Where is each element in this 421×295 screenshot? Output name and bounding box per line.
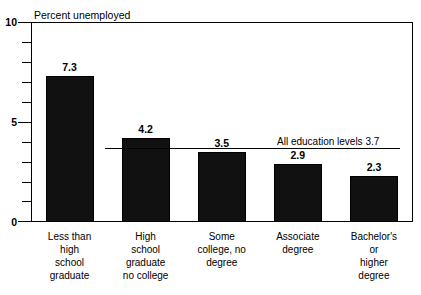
y-axis-minor-tick	[22, 82, 31, 83]
bar	[350, 176, 398, 222]
bar-value-label: 2.3	[344, 162, 404, 173]
y-axis-minor-tick	[22, 142, 31, 143]
y-axis-minor-tick	[22, 201, 31, 202]
bar	[274, 164, 322, 222]
x-axis-category-label: Less than high school graduate	[28, 230, 112, 282]
y-axis-major-tick	[18, 221, 31, 222]
x-axis-category-label: High school graduate no college	[104, 230, 188, 282]
y-axis-minor-tick	[22, 42, 31, 43]
y-axis-minor-tick	[22, 62, 31, 63]
y-axis-minor-tick	[22, 102, 31, 103]
bar-value-label: 4.2	[116, 124, 176, 135]
chart-axis-title: Percent unemployed	[34, 9, 130, 21]
x-axis-category-label: Associate degree	[256, 230, 340, 256]
bar	[122, 138, 170, 222]
unemployment-bar-chart: Percent unemployed 0510 7.3Less than hig…	[0, 0, 421, 295]
bar-value-label: 7.3	[40, 62, 100, 73]
y-axis-label: 5	[0, 117, 17, 127]
x-axis-category-label: Bachelor's or higher degree	[332, 230, 416, 282]
reference-line	[105, 148, 400, 149]
y-axis-minor-tick	[22, 182, 31, 183]
bar-value-label: 2.9	[268, 150, 328, 161]
bar	[198, 152, 246, 222]
y-axis-label: 0	[0, 217, 17, 227]
y-axis-major-tick	[18, 22, 31, 23]
y-axis-minor-tick	[22, 162, 31, 163]
y-axis-label: 10	[0, 17, 17, 27]
y-axis-major-tick	[18, 122, 31, 123]
x-axis-category-label: Some college, no degree	[180, 230, 264, 269]
reference-line-label: All education levels 3.7	[277, 136, 379, 147]
bar	[46, 76, 94, 222]
